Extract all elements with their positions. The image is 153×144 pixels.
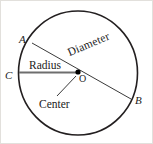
- circle-diagram-figure: A B C O Radius Diameter Center: [0, 0, 153, 144]
- label-center-point-o: O: [79, 74, 86, 84]
- label-point-a: A: [19, 34, 26, 45]
- label-center: Center: [39, 99, 70, 111]
- diagram-canvas: [0, 0, 153, 144]
- label-point-b: B: [135, 95, 142, 106]
- label-radius: Radius: [29, 60, 61, 72]
- label-point-c: C: [5, 70, 12, 81]
